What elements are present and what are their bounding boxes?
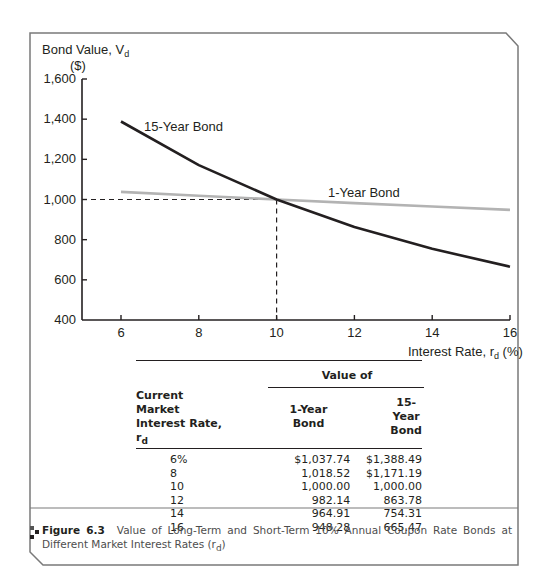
- cell-rate: 6%: [136, 449, 227, 467]
- y-tick-label: 800: [26, 232, 76, 247]
- x-tick-label: 14: [417, 325, 447, 340]
- cell-15-year-value: 1,000.00: [350, 480, 422, 494]
- cell-1-year-value: 1,000.00: [227, 480, 351, 494]
- bond-value-table: Value of Current Market Interest Rate, r…: [136, 360, 422, 535]
- x-tick-label: 10: [262, 325, 292, 340]
- y-tick-label: 1,400: [26, 111, 76, 126]
- y-tick-label: 400: [26, 312, 76, 327]
- cell-rate: 8: [136, 467, 227, 481]
- reference-dashed-lines: [82, 200, 277, 321]
- series-label-1-year: 1-Year Bond: [328, 185, 400, 200]
- cell-15-year-value: $1,171.19: [350, 467, 422, 481]
- x-axis-label: Interest Rate, rd (%): [408, 344, 523, 359]
- series-lines: [121, 122, 510, 267]
- series-label-15-year: 15-Year Bond: [144, 119, 223, 134]
- cell-rate: 10: [136, 480, 227, 494]
- table-row: 6%$1,037.74$1,388.49: [136, 449, 422, 467]
- cell-15-year-value: $1,388.49: [350, 449, 422, 467]
- figure-caption: Figure 6.3 Value of Long-Term and Short-…: [42, 523, 512, 551]
- table-row: 14964.91754.31: [136, 507, 422, 521]
- table-body: 6%$1,037.74$1,388.4981,018.52$1,171.1910…: [136, 449, 422, 535]
- x-tick-label: 16: [495, 325, 525, 340]
- y-tick-label: 600: [26, 272, 76, 287]
- cell-rate: 14: [136, 507, 227, 521]
- x-tick-label: 8: [184, 325, 214, 340]
- table-group-header: Value of: [272, 369, 422, 382]
- figure-number: Figure 6.3: [42, 524, 105, 536]
- x-tick-label: 6: [106, 325, 136, 340]
- y-tick-label: 1,200: [26, 151, 76, 166]
- x-tick-label: 12: [339, 325, 369, 340]
- cell-15-year-value: 863.78: [350, 494, 422, 508]
- cell-1-year-value: 1,018.52: [227, 467, 351, 481]
- table-row: 101,000.001,000.00: [136, 480, 422, 494]
- cell-15-year-value: 754.31: [350, 507, 422, 521]
- cell-1-year-value: 964.91: [227, 507, 351, 521]
- table-row: 12982.14863.78: [136, 494, 422, 508]
- cell-1-year-value: $1,037.74: [227, 449, 351, 467]
- cell-rate: 12: [136, 494, 227, 508]
- cell-1-year-value: 982.14: [227, 494, 351, 508]
- y-axis-label: Bond Value, Vd: [42, 42, 129, 57]
- table-row: 81,018.52$1,171.19: [136, 467, 422, 481]
- series-line-1-year-bond: [121, 192, 510, 210]
- table-group-rule: [268, 387, 424, 388]
- y-tick-label: 1,600: [26, 71, 76, 86]
- figure-marker-icon: [30, 526, 40, 540]
- y-tick-label: 1,000: [26, 192, 76, 207]
